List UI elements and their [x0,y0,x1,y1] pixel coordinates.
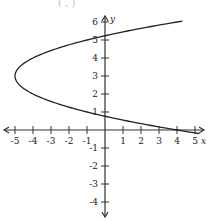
y-tick-label: 6 [92,17,98,27]
y-tick-label: 4 [92,53,98,63]
x-tick-label: 4 [174,136,180,146]
parabola-curve [15,21,199,134]
y-tick-label: 3 [92,71,98,81]
y-tick-label: -4 [89,197,98,207]
x-tick-label: -5 [11,136,20,146]
y-tick-label: -1 [89,143,98,153]
x-tick-label: -4 [29,136,38,146]
y-tick-label: 5 [92,35,98,45]
graph: ( , ) -5-4-3-2-112345-4-3-2-1123456 x y [0,0,209,221]
header-fragment: ( , ) [58,0,75,8]
y-axis-label: y [109,14,116,24]
x-tick-label: 5 [192,136,198,146]
x-tick-label: 1 [120,136,126,146]
x-axis-label: x [201,136,206,146]
x-tick-label: -3 [47,136,56,146]
x-tick-label: 3 [156,136,162,146]
y-tick-label: 2 [92,89,98,99]
y-tick-label: 1 [92,107,98,117]
x-tick-label: 2 [138,136,144,146]
y-tick-label: -2 [89,161,98,171]
y-tick-label: -3 [89,179,98,189]
x-tick-label: -2 [65,136,74,146]
